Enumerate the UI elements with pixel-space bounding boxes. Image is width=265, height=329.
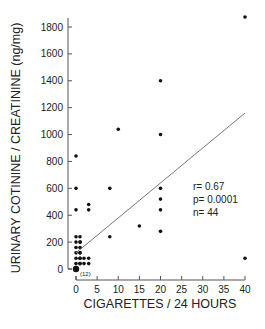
origin-count-label: (12)	[80, 271, 91, 277]
x-tick-label: 25	[176, 284, 188, 295]
y-tick-label: 800	[46, 156, 63, 167]
x-axis-label: CIGARETTES / 24 HOURS	[84, 297, 237, 311]
data-point	[108, 235, 112, 239]
y-tick-label: 600	[46, 183, 63, 194]
y-tick-label: 1400	[41, 75, 64, 86]
data-point	[108, 187, 112, 191]
data-point	[78, 251, 82, 255]
data-point	[74, 262, 78, 266]
data-point	[74, 246, 78, 250]
data-point	[78, 256, 82, 260]
x-tick-label: 30	[197, 284, 209, 295]
data-point	[159, 79, 163, 83]
data-point	[138, 224, 142, 228]
data-point	[74, 208, 78, 212]
scatter-chart: 0200400600800100012001400160018000510152…	[0, 0, 265, 329]
y-tick-label: 1600	[41, 48, 64, 59]
y-axis-label: URINARY COTININE / CREATININE (ng/mg)	[9, 23, 23, 274]
y-tick-label: 1000	[41, 129, 64, 140]
y-tick-label: 400	[46, 210, 63, 221]
data-point	[82, 256, 86, 260]
x-tick-label: 5	[94, 284, 100, 295]
x-tick-label: 0	[73, 284, 79, 295]
data-point	[74, 187, 78, 191]
data-point	[74, 256, 78, 260]
data-point	[87, 262, 91, 266]
data-point	[82, 262, 86, 266]
y-tick-label: 0	[57, 264, 63, 275]
data-point	[159, 187, 163, 191]
data-point	[243, 256, 247, 260]
x-tick-label: 10	[113, 284, 125, 295]
y-tick-label: 1200	[41, 102, 64, 113]
stat-r: r= 0.67	[193, 181, 225, 192]
data-point	[159, 208, 163, 212]
data-point	[159, 133, 163, 137]
stat-n: n= 44	[193, 207, 219, 218]
y-tick-label: 1800	[41, 22, 64, 33]
stat-p: p= 0.0001	[193, 194, 238, 205]
data-point	[87, 256, 91, 260]
data-point	[87, 203, 91, 207]
data-point	[78, 262, 82, 266]
data-point	[74, 154, 78, 158]
x-tick-label: 40	[239, 284, 251, 295]
x-tick-label: 20	[155, 284, 167, 295]
data-point	[74, 235, 78, 239]
data-point	[74, 240, 78, 244]
data-point	[87, 208, 91, 212]
data-point	[243, 15, 247, 19]
data-point	[73, 266, 79, 272]
axes: 0200400600800100012001400160018000510152…	[41, 18, 251, 295]
data-point	[116, 127, 120, 131]
x-tick-label: 35	[218, 284, 230, 295]
y-tick-label: 200	[46, 237, 63, 248]
data-point	[159, 230, 163, 234]
data-point	[159, 197, 163, 201]
x-tick-label: 15	[134, 284, 146, 295]
